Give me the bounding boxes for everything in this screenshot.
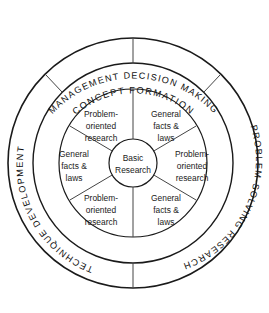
core-label-line2: Research bbox=[115, 165, 151, 175]
spoke-tick-outer-upper-left bbox=[46, 75, 63, 93]
segment-lower-right-line3: laws bbox=[158, 217, 175, 227]
core-label-line1: Basic bbox=[123, 153, 143, 163]
segment-upper-left-line1: Problem- bbox=[84, 109, 118, 119]
core-label: Basic Research bbox=[115, 153, 151, 175]
segment-lower-right-line1: General bbox=[151, 193, 181, 203]
segment-right-line2: oriented bbox=[177, 161, 208, 171]
segment-left-line1: General bbox=[59, 149, 89, 159]
segment-lower-left: Problem- oriented research bbox=[84, 193, 118, 227]
concentric-wheel-diagram: MANAGEMENT DECISION MAKING PROBLEM-SOLVI… bbox=[0, 0, 269, 313]
segment-left-line3: laws bbox=[66, 173, 83, 183]
core-circle bbox=[109, 139, 157, 187]
segment-lower-left-line1: Problem- bbox=[84, 193, 118, 203]
segment-upper-left-line2: oriented bbox=[86, 121, 117, 131]
segment-upper-right-line3: laws bbox=[158, 133, 175, 143]
segment-left-line2: facts & bbox=[61, 161, 87, 171]
diagram-canvas: MANAGEMENT DECISION MAKING PROBLEM-SOLVI… bbox=[0, 0, 269, 313]
segment-upper-right-line1: General bbox=[151, 109, 181, 119]
segment-right-line1: Problem- bbox=[175, 149, 209, 159]
segment-lower-left-line2: oriented bbox=[86, 205, 117, 215]
segment-right-line3: research bbox=[176, 173, 209, 183]
outer-label-right: PROBLEM-SOLVING RESEARCH bbox=[181, 124, 264, 272]
segment-lower-right-line2: facts & bbox=[153, 205, 179, 215]
segment-upper-left-line3: research bbox=[85, 133, 118, 143]
segment-upper-right-line2: facts & bbox=[153, 121, 179, 131]
segment-lower-left-line3: research bbox=[85, 217, 118, 227]
segment-left: General facts & laws bbox=[59, 149, 89, 183]
segment-lower-right: General facts & laws bbox=[151, 193, 181, 227]
segment-upper-left: Problem- oriented research bbox=[84, 109, 118, 143]
segment-right: Problem- oriented research bbox=[175, 149, 209, 183]
spoke-tick-outer-upper-right bbox=[204, 75, 221, 93]
